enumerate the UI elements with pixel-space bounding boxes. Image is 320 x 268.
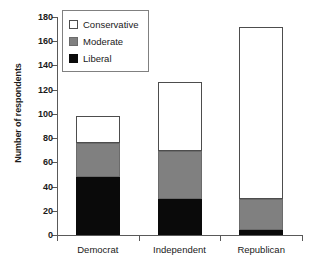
bar-segment-moderate	[76, 143, 120, 177]
bar-segment-liberal	[76, 177, 120, 235]
chart-legend: Conservative Moderate Liberal	[62, 10, 149, 72]
bar-segment-moderate	[239, 199, 283, 230]
bar-segment-liberal	[239, 230, 283, 235]
x-axis-category-label: Republican	[237, 245, 285, 255]
bar-segment-conservative	[239, 27, 283, 199]
legend-item-label: Liberal	[83, 54, 112, 64]
x-axis-tick	[139, 235, 140, 241]
x-axis-tick	[302, 235, 303, 241]
stacked-bar-chart: Number of respondents 020406080100120140…	[0, 0, 320, 268]
bar-segment-conservative	[76, 116, 120, 143]
y-axis-tick-label: 0	[48, 231, 53, 240]
y-axis-tick-label: 40	[43, 182, 53, 191]
y-axis-tick-label: 60	[43, 158, 53, 167]
legend-item-moderate: Moderate	[69, 33, 148, 50]
y-axis-tick-label: 160	[38, 37, 53, 46]
legend-item-conservative: Conservative	[69, 16, 148, 33]
x-axis-tick	[57, 235, 58, 241]
y-axis-tick-label: 180	[38, 13, 53, 22]
y-axis-tick-label: 20	[43, 206, 53, 215]
bar-segment-moderate	[158, 151, 202, 198]
y-axis-tick-label: 80	[43, 134, 53, 143]
y-axis-tick-label: 120	[38, 85, 53, 94]
x-axis-line	[57, 235, 303, 236]
white-square-swatch	[69, 20, 78, 29]
bar-segment-conservative	[158, 82, 202, 151]
legend-item-label: Moderate	[83, 37, 123, 47]
y-axis-tick-label: 100	[38, 109, 53, 118]
bar-independent	[158, 17, 202, 235]
x-axis-tick	[220, 235, 221, 241]
black-square-swatch	[69, 54, 78, 63]
x-axis-category-label: Independent	[153, 245, 206, 255]
legend-item-liberal: Liberal	[69, 50, 148, 67]
legend-item-label: Conservative	[83, 20, 138, 30]
bar-republican	[239, 17, 283, 235]
bar-segment-liberal	[158, 199, 202, 235]
y-axis-title: Number of respondents	[13, 33, 23, 193]
gray-square-swatch	[69, 37, 78, 46]
y-axis-tick-label: 140	[38, 61, 53, 70]
x-axis-category-label: Democrat	[77, 245, 118, 255]
